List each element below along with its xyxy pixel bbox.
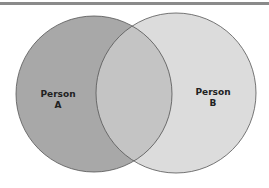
label-person-a-line1: Person bbox=[40, 89, 75, 99]
venn-diagram: Person A Person B bbox=[0, 0, 269, 188]
label-person-a-line2: A bbox=[55, 100, 62, 110]
label-person-b-line2: B bbox=[210, 98, 217, 108]
label-person-b-line1: Person bbox=[195, 87, 230, 97]
